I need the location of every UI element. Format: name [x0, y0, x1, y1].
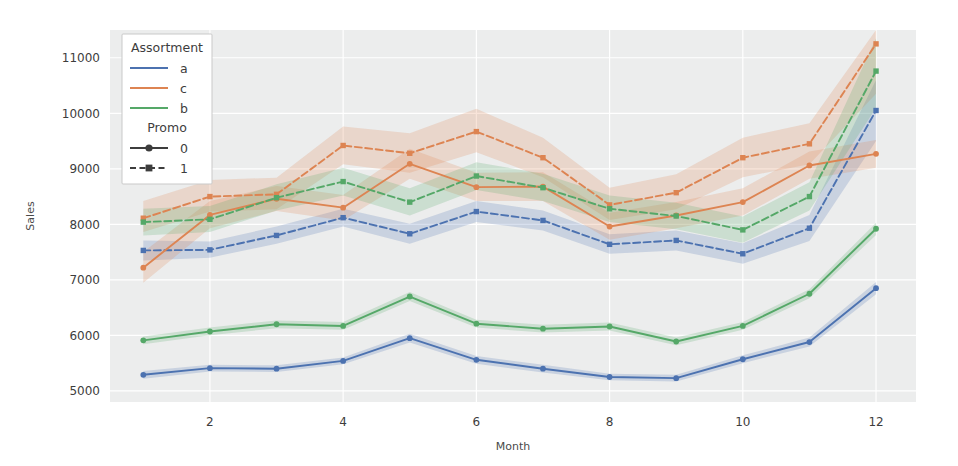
- series-marker-b-1: [340, 179, 345, 184]
- y-tick-label: 10000: [62, 107, 100, 121]
- series-marker-b-0: [673, 339, 679, 345]
- series-marker-b-0: [207, 329, 213, 335]
- series-marker-a-1: [407, 231, 412, 236]
- series-marker-a-0: [807, 339, 813, 345]
- x-tick-label: 10: [735, 415, 750, 429]
- x-axis-label: Month: [496, 440, 531, 453]
- series-marker-b-1: [274, 195, 279, 200]
- series-marker-b-1: [873, 68, 878, 73]
- y-tick-label: 8000: [69, 218, 100, 232]
- legend-entry-label: b: [180, 101, 188, 116]
- legend-entry-label: 1: [180, 161, 188, 176]
- series-marker-a-1: [807, 226, 812, 231]
- series-marker-c-0: [607, 224, 613, 230]
- legend-entry-label: c: [180, 81, 187, 96]
- legend-title: Assortment: [131, 40, 203, 55]
- series-marker-b-1: [740, 227, 745, 232]
- series-marker-a-1: [274, 233, 279, 238]
- series-marker-b-0: [540, 326, 546, 332]
- series-marker-a-1: [873, 108, 878, 113]
- y-tick-label: 11000: [62, 51, 100, 65]
- y-axis-label: Sales: [24, 201, 37, 231]
- series-marker-c-1: [474, 129, 479, 134]
- y-tick-label: 9000: [69, 162, 100, 176]
- series-marker-c-1: [407, 151, 412, 156]
- legend-marker-square: [146, 165, 153, 172]
- series-marker-a-0: [873, 285, 879, 291]
- series-marker-a-0: [207, 365, 213, 371]
- y-tick-label: 5000: [69, 384, 100, 398]
- series-marker-b-0: [740, 323, 746, 329]
- legend-entry-label: a: [180, 61, 188, 76]
- x-tick-label: 6: [473, 415, 481, 429]
- legend-entry-label: 0: [180, 141, 188, 156]
- series-marker-c-1: [540, 155, 545, 160]
- series-marker-b-0: [873, 226, 879, 232]
- x-tick-label: 4: [339, 415, 347, 429]
- series-marker-a-0: [607, 374, 613, 380]
- series-marker-c-1: [740, 155, 745, 160]
- series-marker-a-0: [140, 372, 146, 378]
- series-marker-c-1: [340, 143, 345, 148]
- plot-area: 50006000700080009000100001100024681012Mo…: [0, 0, 958, 466]
- series-marker-b-0: [274, 321, 280, 327]
- series-marker-b-1: [607, 206, 612, 211]
- x-tick-label: 8: [606, 415, 614, 429]
- series-marker-a-1: [607, 242, 612, 247]
- series-marker-a-0: [673, 375, 679, 381]
- series-marker-c-0: [473, 184, 479, 190]
- chart-svg: 50006000700080009000100001100024681012Mo…: [0, 0, 958, 466]
- series-marker-a-0: [407, 335, 413, 341]
- series-marker-a-1: [673, 238, 678, 243]
- series-marker-c-1: [807, 141, 812, 146]
- series-marker-c-0: [740, 199, 746, 205]
- series-marker-a-0: [274, 366, 280, 372]
- y-tick-label: 7000: [69, 273, 100, 287]
- series-marker-b-1: [540, 185, 545, 190]
- y-tick-label: 6000: [69, 329, 100, 343]
- legend-title: Promo: [147, 120, 187, 135]
- series-marker-b-0: [140, 337, 146, 343]
- series-marker-b-1: [141, 219, 146, 224]
- series-marker-b-0: [407, 294, 413, 300]
- series-marker-c-0: [407, 161, 413, 167]
- series-marker-a-1: [474, 209, 479, 214]
- series-marker-b-1: [407, 199, 412, 204]
- series-marker-c-0: [873, 151, 879, 157]
- series-marker-c-1: [873, 41, 878, 46]
- series-marker-c-1: [207, 194, 212, 199]
- series-marker-c-1: [673, 190, 678, 195]
- series-marker-a-0: [473, 357, 479, 363]
- series-marker-a-0: [740, 356, 746, 362]
- x-tick-label: 2: [206, 415, 214, 429]
- series-marker-a-1: [740, 251, 745, 256]
- chart-figure: 50006000700080009000100001100024681012Mo…: [0, 0, 958, 466]
- series-marker-a-1: [207, 247, 212, 252]
- series-marker-b-0: [607, 324, 613, 330]
- x-tick-label: 12: [868, 415, 883, 429]
- series-marker-c-0: [140, 265, 146, 271]
- series-marker-c-0: [340, 205, 346, 211]
- series-marker-a-0: [540, 366, 546, 372]
- series-marker-b-1: [207, 217, 212, 222]
- series-marker-b-0: [473, 321, 479, 327]
- series-marker-c-0: [807, 163, 813, 169]
- legend: AssortmentacbPromo01: [122, 34, 212, 184]
- series-marker-b-1: [673, 213, 678, 218]
- series-marker-b-1: [807, 194, 812, 199]
- series-marker-b-0: [807, 291, 813, 297]
- legend-marker-circle: [145, 144, 152, 151]
- series-marker-a-1: [540, 218, 545, 223]
- series-marker-a-0: [340, 358, 346, 364]
- series-marker-a-1: [340, 215, 345, 220]
- series-marker-a-1: [141, 248, 146, 253]
- series-marker-b-0: [340, 323, 346, 329]
- series-marker-b-1: [474, 173, 479, 178]
